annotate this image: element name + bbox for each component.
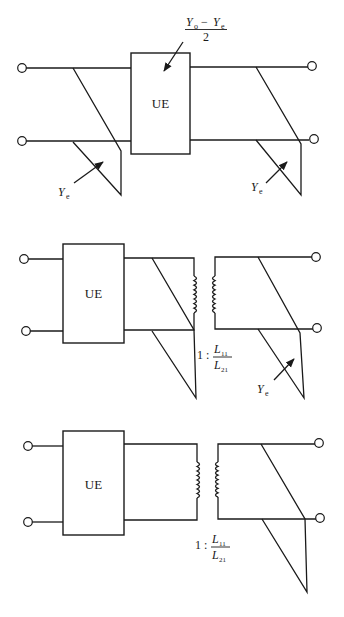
c2-primary-top-wire	[124, 258, 194, 276]
svg-text:21: 21	[221, 366, 229, 374]
c2-primary-bottom-wire	[124, 313, 194, 330]
c1-left-stub	[73, 68, 121, 195]
svg-text:L: L	[213, 342, 221, 356]
c1-ue-label: UE	[152, 96, 169, 111]
c3-terminal-top-left	[24, 442, 33, 451]
c2-primary-coil-icon	[194, 276, 197, 313]
c3-secondary-coil-icon	[216, 462, 219, 497]
circuit-3: UE 1 : L 11 L 21	[24, 431, 325, 592]
c3-terminal-bottom-right	[316, 514, 325, 523]
svg-text:L: L	[211, 548, 219, 562]
svg-text:1 :: 1 :	[197, 348, 209, 362]
svg-text:Y: Y	[213, 15, 221, 29]
c1-ue-admittance-label: Y o − Y e 2	[185, 15, 227, 44]
c1-left-stub-label: Y e	[58, 185, 70, 201]
c3-primary-bottom-wire	[124, 498, 197, 520]
c3-primary-coil-icon	[197, 462, 200, 498]
svg-text:Y: Y	[251, 180, 259, 194]
c2-stub-label: Y e	[257, 382, 269, 398]
svg-text:1 :: 1 :	[195, 538, 207, 552]
c2-stub-arrow-icon	[274, 359, 294, 380]
svg-text:L: L	[211, 532, 219, 546]
svg-text:Y: Y	[58, 185, 66, 199]
c1-left-stub-arrow-icon	[74, 162, 103, 183]
c2-left-stub	[152, 258, 196, 398]
svg-text:Y: Y	[257, 382, 265, 396]
svg-text:e: e	[265, 389, 269, 398]
c1-right-stub-label: Y e	[251, 180, 263, 196]
c2-terminal-bottom-left	[22, 327, 31, 336]
c1-terminal-bottom-left	[18, 137, 27, 146]
svg-text:e: e	[66, 192, 70, 201]
c2-terminal-top-right	[312, 253, 321, 262]
svg-text:2: 2	[203, 30, 209, 44]
c3-terminal-bottom-left	[24, 518, 33, 527]
c3-right-stub	[261, 444, 307, 592]
c2-ue-label: UE	[85, 286, 102, 301]
c3-transformer-ratio-label: 1 : L 11 L 21	[195, 532, 230, 564]
c1-terminal-bottom-right	[310, 135, 319, 144]
svg-text:−: −	[201, 15, 208, 29]
c1-terminal-top-right	[308, 62, 317, 71]
c3-ue-label: UE	[85, 477, 102, 492]
c2-secondary-bottom-wire	[215, 313, 313, 329]
c2-terminal-top-left	[20, 255, 29, 264]
svg-text:L: L	[213, 358, 221, 372]
c3-terminal-top-right	[315, 439, 324, 448]
c2-terminal-bottom-right	[313, 324, 322, 333]
svg-text:e: e	[259, 187, 263, 196]
circuit-2: UE 1 : L 11 L 21 Y e	[20, 244, 322, 398]
c2-transformer-ratio-label: 1 : L 11 L 21	[197, 342, 232, 374]
circuit-diagram: UE Y o − Y e 2 Y e Y e	[0, 0, 344, 617]
c3-secondary-bottom-wire	[218, 497, 316, 519]
c2-right-stub	[258, 257, 304, 398]
svg-text:Y: Y	[186, 15, 194, 29]
c2-secondary-coil-icon	[213, 276, 216, 313]
c3-primary-top-wire	[124, 444, 197, 462]
c1-right-stub	[256, 67, 301, 195]
svg-text:21: 21	[219, 556, 227, 564]
c1-terminal-top-left	[18, 64, 27, 73]
circuit-1: UE Y o − Y e 2 Y e Y e	[18, 15, 319, 201]
